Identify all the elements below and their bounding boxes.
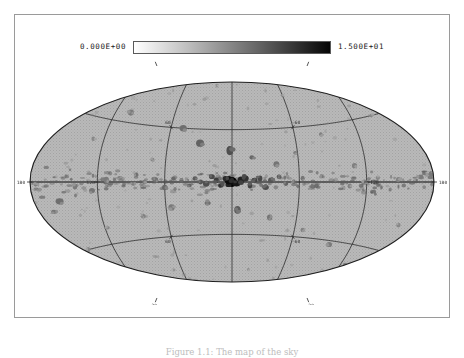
background-noise-speck <box>172 89 174 93</box>
background-noise-speck <box>36 215 41 218</box>
background-noise-speck <box>386 185 390 188</box>
background-noise-speck <box>222 61 224 64</box>
background-noise-speck <box>194 302 198 305</box>
background-noise-speck <box>157 229 161 232</box>
galactic-plane-diffuse-emission <box>81 181 86 183</box>
galactic-plane-diffuse-emission <box>308 170 313 173</box>
source-core <box>312 72 316 75</box>
galactic-plane-diffuse-emission <box>61 191 66 193</box>
sky-source-marker <box>248 182 253 188</box>
background-noise-speck <box>347 117 350 120</box>
background-noise-speck <box>95 199 98 201</box>
galactic-plane-diffuse-emission <box>250 188 253 191</box>
galactic-plane-diffuse-emission <box>215 172 218 174</box>
background-noise-speck <box>324 129 326 133</box>
galactic-plane-diffuse-emission <box>210 187 214 190</box>
galactic-plane-diffuse-emission <box>370 191 373 193</box>
sky-source-marker <box>277 174 282 178</box>
background-noise-speck <box>105 76 108 79</box>
galactic-plane-diffuse-emission <box>256 181 262 184</box>
background-noise-speck <box>317 99 320 103</box>
background-noise-speck <box>235 162 237 164</box>
source-halo <box>314 72 316 74</box>
background-noise-speck <box>106 96 108 98</box>
background-noise-speck <box>147 292 149 295</box>
source-halo <box>105 226 107 229</box>
axis-tick-mark <box>307 62 309 66</box>
galactic-plane-diffuse-emission <box>233 174 236 177</box>
background-noise-speck <box>153 100 155 102</box>
parallel-line <box>131 60 333 77</box>
galactic-plane-diffuse-emission <box>374 193 377 196</box>
background-noise-speck <box>159 139 163 141</box>
source-halo <box>200 142 205 146</box>
axis-tick-label: 60 <box>165 120 171 125</box>
galactic-plane-diffuse-emission <box>173 187 176 191</box>
background-noise-speck <box>86 75 91 78</box>
background-noise-speck <box>124 190 127 192</box>
source-core <box>153 80 157 84</box>
background-noise-speck <box>56 108 58 111</box>
sky-source-marker <box>396 223 400 228</box>
source-halo <box>60 202 63 205</box>
background-noise-speck <box>358 245 360 247</box>
galactic-plane-diffuse-emission <box>95 175 97 178</box>
galactic-plane-diffuse-emission <box>350 179 355 182</box>
background-noise-speck <box>209 160 211 162</box>
source-halo <box>119 176 122 178</box>
source-halo <box>183 128 187 132</box>
galactic-plane-diffuse-emission <box>422 171 426 175</box>
source-halo <box>156 180 158 183</box>
galactic-plane-diffuse-emission <box>107 184 113 187</box>
background-noise-speck <box>263 287 268 290</box>
background-noise-speck <box>126 92 130 95</box>
source-halo <box>302 230 304 232</box>
source-halo <box>131 112 133 115</box>
background-noise-speck <box>157 278 160 281</box>
colorbar: 0.000E+00 1.500E+01 <box>14 36 450 58</box>
axis-tick-label: 30 <box>151 303 157 305</box>
galactic-plane-diffuse-emission <box>286 172 288 175</box>
source-halo <box>36 183 39 185</box>
background-noise-speck <box>333 136 337 140</box>
galactic-plane-diffuse-emission <box>283 175 286 179</box>
source-halo <box>355 165 357 168</box>
source-halo <box>239 180 243 184</box>
galactic-plane-diffuse-emission <box>265 174 268 178</box>
background-noise-speck <box>318 88 322 91</box>
background-noise-speck <box>136 99 138 102</box>
galactic-plane-diffuse-emission <box>52 176 55 178</box>
source-halo <box>234 207 238 210</box>
source-halo <box>106 80 108 82</box>
source-halo <box>106 179 108 183</box>
background-noise-speck <box>394 214 396 217</box>
axis-tick-label: -30 <box>306 303 315 305</box>
sky-map-figure: 0.000E+00 1.500E+01 <box>0 0 464 358</box>
source-halo <box>416 175 419 178</box>
background-noise-speck <box>138 71 140 72</box>
source-halo <box>205 199 209 203</box>
galactic-plane-diffuse-emission <box>390 175 392 179</box>
background-noise-speck <box>89 242 91 244</box>
background-noise-speck <box>220 204 222 208</box>
galactic-plane-diffuse-emission <box>197 194 203 196</box>
background-noise-speck <box>167 227 170 230</box>
galactic-plane-diffuse-emission <box>81 186 86 190</box>
background-noise-speck <box>209 299 211 302</box>
background-noise-speck <box>347 104 351 107</box>
galactic-plane-diffuse-emission <box>402 184 406 188</box>
galactic-plane-diffuse-emission <box>331 172 335 174</box>
background-noise-speck <box>187 103 189 106</box>
galactic-plane-diffuse-emission <box>402 178 404 181</box>
source-halo <box>172 206 176 209</box>
galactic-plane-diffuse-emission <box>163 179 167 184</box>
background-noise-speck <box>222 156 224 158</box>
source-halo <box>179 178 183 180</box>
background-noise-speck <box>181 300 183 303</box>
background-noise-speck <box>257 78 259 80</box>
galactic-plane-diffuse-emission <box>361 190 367 195</box>
galactic-plane-diffuse-emission <box>104 171 110 174</box>
axis-tick-mark <box>155 62 157 66</box>
source-halo <box>55 210 58 214</box>
galactic-plane-diffuse-emission <box>113 178 116 181</box>
